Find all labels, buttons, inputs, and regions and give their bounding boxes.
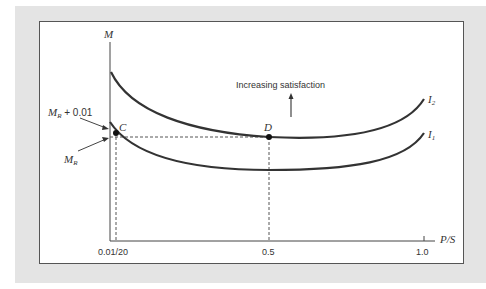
point-d-label: D [263, 121, 272, 133]
x-tick-label-left: 0.01/20 [98, 247, 128, 257]
mr-arrow-icon [102, 137, 109, 142]
chart-svg: M P/S 0.01/20 0.5 1.0 MR + 0.01 MR C D I… [0, 0, 486, 289]
mr-plus-pointer [80, 118, 106, 128]
point-d-marker [266, 134, 272, 140]
curve-i2-label: I2 [427, 93, 436, 107]
x-tick-label-mid: 0.5 [262, 247, 275, 257]
point-c-label: C [119, 121, 127, 133]
mr-label: MR [63, 153, 78, 167]
curve-i1-label: I1 [427, 128, 435, 142]
x-axis-label: P/S [439, 233, 456, 245]
increasing-satisfaction-label: Increasing satisfaction [236, 80, 325, 90]
increasing-arrow-icon [289, 93, 294, 99]
x-tick-label-right: 1.0 [416, 247, 429, 257]
mr-plus-label: MR + 0.01 [47, 106, 93, 120]
mr-plus-arrow-icon [102, 125, 109, 130]
mr-pointer [78, 139, 106, 151]
y-axis-label: M [103, 28, 114, 40]
